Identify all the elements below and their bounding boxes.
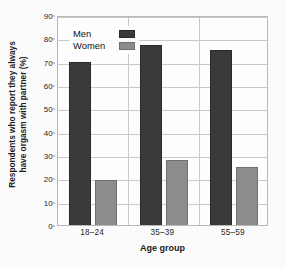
bar-women-0 — [95, 180, 117, 226]
bar-women-2 — [236, 167, 258, 225]
legend: Men Women — [69, 26, 139, 54]
y-axis-tickmark — [51, 109, 55, 110]
y-axis-tickmark — [51, 202, 55, 203]
y-axis-tickmark — [51, 132, 55, 133]
legend-label-men: Men — [73, 28, 119, 40]
y-axis-tickmark — [51, 226, 55, 227]
x-axis-title: Age group — [57, 243, 268, 253]
legend-item-women: Women — [73, 40, 135, 52]
bar-chart-figure: Respondents who report they always have … — [0, 0, 286, 269]
bar-men-2 — [210, 50, 232, 225]
y-axis-tickmark — [51, 179, 55, 180]
y-axis-tickmark — [51, 156, 55, 157]
x-axis-tick-1: 35–39 — [151, 228, 175, 237]
bar-men-0 — [69, 62, 91, 225]
y-axis-tickmark — [51, 39, 55, 40]
bar-men-1 — [140, 45, 162, 225]
x-axis-tick-labels: 18–2435–3955–59 — [57, 228, 268, 242]
y-axis-tickmark — [51, 62, 55, 63]
y-axis-tick-labels: 0102030405060708090 — [34, 16, 56, 226]
vertical-gridline — [199, 17, 200, 225]
y-axis-title-line-2: have orgasm with partner (%) — [17, 41, 28, 188]
gridline — [58, 17, 267, 18]
x-axis-tick-0: 18–24 — [80, 228, 104, 237]
plot-area: Men Women — [57, 16, 268, 226]
y-axis-tickmark — [51, 16, 55, 17]
legend-swatch-men-icon — [119, 30, 135, 38]
bar-women-1 — [166, 160, 188, 225]
y-axis-tickmark — [51, 86, 55, 87]
legend-label-women: Women — [73, 40, 119, 52]
x-axis-tick-2: 55–59 — [221, 228, 245, 237]
legend-item-men: Men — [73, 28, 135, 40]
y-axis-title-line-1: Respondents who report they always — [7, 41, 18, 188]
legend-swatch-women-icon — [119, 42, 135, 50]
y-axis-title: Respondents who report they always have … — [0, 0, 34, 228]
